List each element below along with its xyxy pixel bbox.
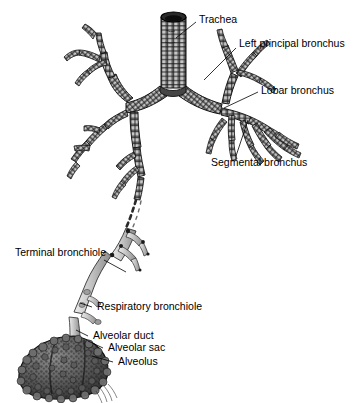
label-lobar-bronchus: Lobar bronchus [261, 84, 334, 96]
trachea-structure [161, 12, 186, 88]
label-respiratory-bronchiole: Respiratory bronchiole [97, 300, 202, 312]
label-left-principal-bronchus: Left principal bronchus [239, 37, 345, 49]
label-alveolar-sac: Alveolar sac [108, 341, 165, 353]
label-trachea: Trachea [199, 13, 237, 25]
label-segmental-bronchus: Segmental bronchus [211, 156, 307, 168]
label-terminal-bronchiole: Terminal bronchiole [15, 246, 106, 258]
label-alveolus: Alveolus [118, 355, 158, 367]
label-alveolar-duct: Alveolar duct [93, 329, 154, 341]
bronchial-tree-diagram: Trachea Left principal bronchus Lobar br… [0, 0, 358, 403]
